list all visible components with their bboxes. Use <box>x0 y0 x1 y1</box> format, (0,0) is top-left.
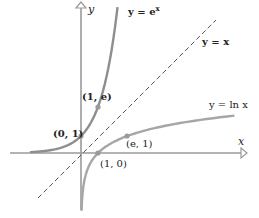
point-label-0-1: (0, 1) <box>53 128 83 140</box>
y-axis-label: y <box>87 3 95 16</box>
ln-curve-label: y = ln x <box>208 99 248 110</box>
y-axis-arrow-icon <box>76 2 86 8</box>
identity-line-label: y = x <box>201 36 230 47</box>
x-axis-label: x <box>238 135 245 148</box>
point-label-e-1: (e, 1) <box>126 138 153 149</box>
point-1-e <box>95 104 100 109</box>
point-1-0 <box>95 150 100 155</box>
x-axis-arrow-icon <box>241 148 247 158</box>
identity-line <box>38 20 216 198</box>
point-label-1-0: (1, 0) <box>100 158 127 169</box>
point-label-1-e: (1, e) <box>82 91 112 103</box>
exp-curve-label: y = ex <box>127 4 161 17</box>
diagram-canvas: y x y = ex y = x y = ln x (1, e) (0, 1) … <box>0 0 259 218</box>
